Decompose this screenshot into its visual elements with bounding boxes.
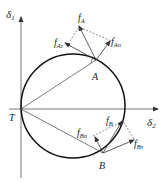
vector-fBtau	[103, 140, 134, 153]
point-A-label: A	[91, 71, 99, 82]
chord-TA	[21, 60, 96, 109]
origin-label: T	[9, 112, 16, 123]
force-decomposition-diagram: δ1 δ2 T A B fA fAτ fAn fB fBn fBτ	[0, 0, 165, 183]
delta2-label: δ2	[147, 116, 156, 130]
fBn-label: fBn	[77, 127, 87, 139]
dashed-parallelogram-B	[93, 121, 134, 139]
fBtau-label: fBτ	[134, 138, 144, 150]
chord-TB	[21, 109, 103, 153]
dashed-parallelogram-A	[70, 27, 111, 41]
point-B-label: B	[99, 160, 105, 171]
fAtau-label: fAτ	[54, 37, 64, 49]
vector-fAn	[96, 41, 110, 60]
fB-label: fB	[106, 115, 113, 127]
fAn-label: fAn	[111, 36, 121, 48]
fA-label: fA	[78, 12, 85, 24]
delta1-label: δ1	[6, 8, 15, 22]
